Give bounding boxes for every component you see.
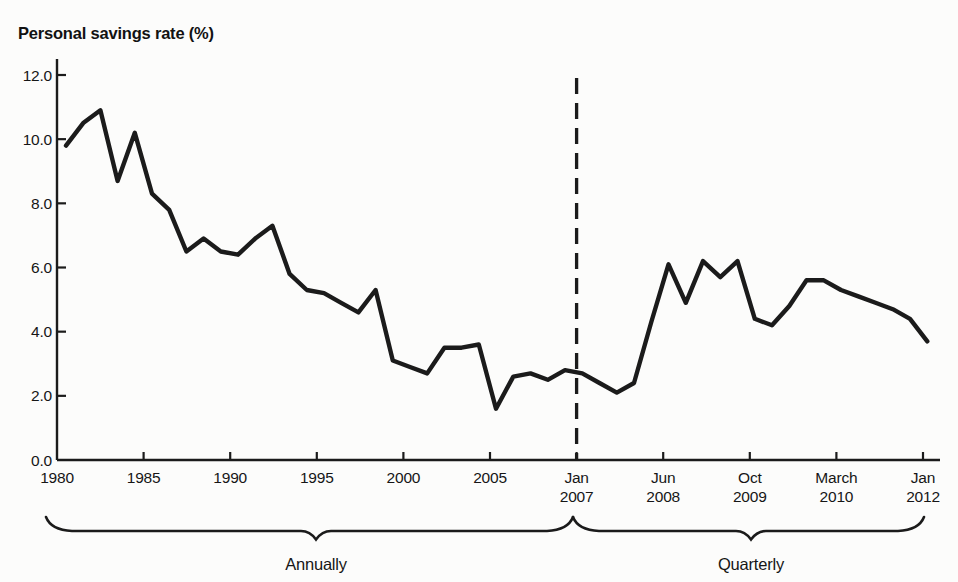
x-tick-label: 1985 <box>127 469 161 486</box>
y-tick-label: 2.0 <box>31 387 53 404</box>
x-tick-label: 1995 <box>300 469 334 486</box>
annually-brace <box>46 517 573 540</box>
y-tick-label: 4.0 <box>31 323 53 340</box>
y-tick-label: 0.0 <box>31 452 53 469</box>
savings-rate-line-chart: 0.02.04.06.08.010.012.019801985199019952… <box>0 0 958 582</box>
data-line <box>66 110 927 408</box>
y-tick-label: 8.0 <box>31 195 53 212</box>
x-tick-label: 2007 <box>560 488 594 505</box>
quarterly-brace <box>573 517 924 540</box>
x-tick-label: 2005 <box>473 469 507 486</box>
x-tick-label: 2008 <box>646 488 680 505</box>
x-tick-label: 1990 <box>213 469 247 486</box>
x-tick-label: Jan <box>911 469 935 486</box>
annually-label: Annually <box>285 555 348 573</box>
x-tick-label: March <box>815 469 857 486</box>
x-tick-label: Jan <box>564 469 588 486</box>
y-tick-label: 6.0 <box>31 259 53 276</box>
x-tick-label: Oct <box>738 469 762 486</box>
quarterly-label: Quarterly <box>718 555 785 573</box>
x-tick-label: 2000 <box>387 469 421 486</box>
x-tick-label: 2012 <box>906 488 940 505</box>
x-tick-label: 2010 <box>820 488 854 505</box>
savings-rate-figure: Personal savings rate (%) 0.02.04.06.08.… <box>0 0 958 582</box>
x-tick-label: 1980 <box>40 469 74 486</box>
y-tick-label: 12.0 <box>23 67 53 84</box>
x-tick-label: Jun <box>651 469 675 486</box>
y-tick-label: 10.0 <box>23 131 53 148</box>
x-tick-label: 2009 <box>733 488 767 505</box>
